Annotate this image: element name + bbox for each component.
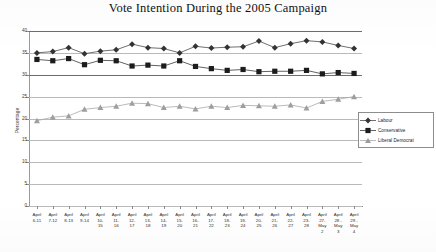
data-point-labour	[161, 46, 167, 52]
x-tick-mark	[53, 206, 54, 209]
data-point-labour	[50, 49, 56, 55]
x-tick-mark	[132, 206, 133, 209]
data-point-labour	[256, 38, 262, 44]
x-tick-mark	[196, 206, 197, 209]
data-point-labour	[240, 44, 246, 50]
x-tick-mark	[100, 206, 101, 209]
x-tick-mark	[322, 206, 323, 209]
x-tick-mark	[307, 206, 308, 209]
data-point-conservative	[129, 63, 134, 68]
x-tick-mark	[275, 206, 276, 209]
data-point-labour	[177, 50, 183, 56]
data-point-labour	[351, 46, 357, 52]
data-point-conservative	[336, 70, 341, 75]
data-point-labour	[319, 39, 325, 45]
data-point-conservative	[320, 71, 325, 76]
legend-item-label: Labour	[378, 118, 393, 123]
data-point-labour	[82, 51, 88, 57]
data-point-conservative	[50, 58, 55, 63]
data-point-labour	[113, 47, 119, 53]
diamond-marker-icon	[360, 116, 376, 125]
data-point-conservative	[209, 66, 214, 71]
legend-item-liberal-democrat[interactable]: Liberal Democrat	[360, 135, 431, 145]
x-tick-mark	[37, 206, 38, 209]
data-point-conservative	[98, 58, 103, 63]
data-point-labour	[272, 45, 278, 51]
x-tick-mark	[243, 206, 244, 209]
data-point-conservative	[351, 71, 356, 76]
data-point-labour	[66, 45, 72, 51]
data-point-labour	[304, 38, 310, 44]
chart-legend: LabourConservativeLiberal Democrat	[358, 112, 434, 148]
data-point-conservative	[225, 68, 230, 73]
x-tick-mark	[69, 206, 70, 209]
x-tick-mark	[211, 206, 212, 209]
x-tick-mark	[259, 206, 260, 209]
x-tick-mark	[354, 206, 355, 209]
legend-item-label: Liberal Democrat	[378, 138, 414, 143]
legend-item-conservative[interactable]: Conservative	[360, 125, 431, 135]
x-tick-mark	[227, 206, 228, 209]
x-tick-mark	[85, 206, 86, 209]
data-point-conservative	[161, 63, 166, 68]
data-point-labour	[224, 44, 230, 50]
data-point-labour	[335, 42, 341, 48]
data-point-labour	[97, 48, 103, 54]
x-tick-mark	[116, 206, 117, 209]
data-point-labour	[288, 41, 294, 47]
data-point-liberal-democrat	[66, 113, 72, 119]
data-point-conservative	[66, 56, 71, 61]
data-point-labour	[193, 43, 199, 49]
x-tick-mark	[291, 206, 292, 209]
x-tick-label: April 29 - May 4	[343, 212, 365, 234]
data-point-labour	[34, 50, 40, 56]
triangle-marker-icon	[360, 136, 376, 145]
data-point-conservative	[177, 58, 182, 63]
data-point-conservative	[145, 63, 150, 68]
legend-item-labour[interactable]: Labour	[360, 115, 431, 125]
data-point-conservative	[240, 67, 245, 72]
data-point-conservative	[82, 62, 87, 67]
data-point-conservative	[34, 57, 39, 62]
data-point-labour	[145, 45, 151, 51]
data-point-conservative	[193, 64, 198, 69]
vote-intention-line-chart: Vote Intention During the 2005 Campaign …	[0, 0, 436, 252]
x-tick-mark	[338, 206, 339, 209]
data-point-conservative	[114, 58, 119, 63]
data-point-labour	[129, 41, 135, 47]
data-point-conservative	[272, 69, 277, 74]
data-point-conservative	[256, 69, 261, 74]
x-tick-mark	[180, 206, 181, 209]
data-point-labour	[208, 45, 214, 51]
square-marker-icon	[360, 126, 376, 135]
x-tick-mark	[164, 206, 165, 209]
data-point-liberal-democrat	[351, 94, 357, 100]
data-point-conservative	[304, 68, 309, 73]
legend-item-label: Conservative	[378, 128, 405, 133]
x-tick-mark	[148, 206, 149, 209]
data-point-conservative	[288, 69, 293, 74]
